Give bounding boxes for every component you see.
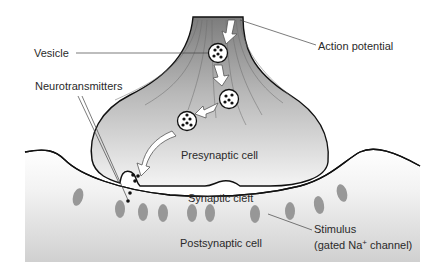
neurotransmitters-label: Neurotransmitters — [35, 80, 122, 92]
channel — [115, 200, 125, 218]
synaptic-cleft-label: Synaptic cleft — [188, 192, 253, 204]
action-potential-label: Action potential — [318, 40, 393, 52]
vesicle — [178, 112, 197, 131]
channel — [138, 203, 148, 221]
action-potential-leader — [240, 20, 316, 45]
stimulus-label: Stimulus — [314, 223, 356, 235]
gated-channel-suffix: channel) — [367, 239, 412, 251]
vesicle — [209, 44, 228, 63]
vesicle — [220, 90, 239, 109]
gated-channel-label: (gated Na+ channel) — [314, 239, 412, 251]
channel — [158, 204, 168, 222]
channel — [250, 205, 260, 223]
gated-channel-prefix: (gated Na — [314, 239, 362, 251]
vesicle-label: Vesicle — [34, 47, 69, 59]
channel — [205, 204, 215, 222]
channel — [187, 204, 197, 222]
presynaptic-cell-label: Presynaptic cell — [181, 149, 258, 161]
channel — [285, 202, 295, 220]
postsynaptic-cell-label: Postsynaptic cell — [180, 237, 262, 249]
